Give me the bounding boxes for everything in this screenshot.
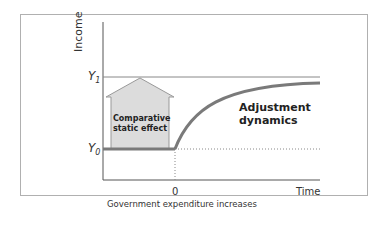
x-tick-caption: Government expenditure increases [107,199,257,209]
curve-label: Adjustment dynamics [239,101,311,127]
diagram-canvas [0,0,386,232]
x-axis-label: Time [296,186,320,197]
y-axis-label: Income [72,12,85,52]
y0-label: Y0 [88,141,100,157]
arrow-label: Comparative static effect [113,114,170,134]
y1-label: Y1 [88,69,100,85]
x-tick-zero: 0 [172,186,178,197]
